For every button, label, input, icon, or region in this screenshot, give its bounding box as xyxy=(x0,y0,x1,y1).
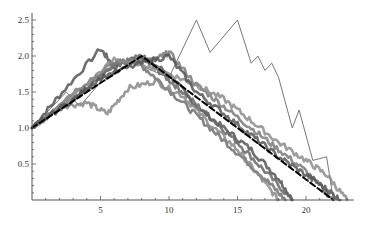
series-line xyxy=(32,56,333,200)
x-tick-label: 5 xyxy=(98,205,103,215)
y-tick-label: 1.0 xyxy=(18,123,30,133)
y-tick-label: 0.5 xyxy=(18,159,30,169)
series-layer xyxy=(32,20,347,200)
series-line xyxy=(32,55,340,200)
series-line xyxy=(32,55,292,200)
y-tick-label: 2.0 xyxy=(18,51,30,61)
x-tick-label: 10 xyxy=(165,205,175,215)
y-tick-label: 1.5 xyxy=(18,87,30,97)
series-line xyxy=(32,20,333,200)
x-tick-label: 20 xyxy=(302,205,312,215)
x-tick-label: 15 xyxy=(233,205,243,215)
series-line xyxy=(32,58,347,200)
y-tick-label: 2.5 xyxy=(18,15,30,25)
line-chart: 51015200.51.01.52.02.5 xyxy=(0,0,365,225)
